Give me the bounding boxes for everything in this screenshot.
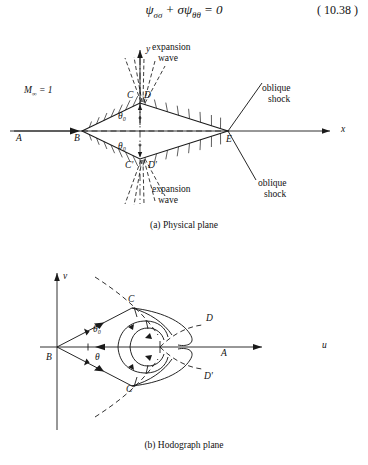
oblique-shock-label-lower: oblique shock xyxy=(258,178,287,200)
hodograph-plane-caption: (b) Hodograph plane xyxy=(0,440,368,450)
physical-x-axis-arrowhead xyxy=(322,128,330,134)
physical-x-axis-label: x xyxy=(341,124,345,135)
oblique-shock-upper-line2: shock xyxy=(268,94,290,105)
equation-number: ( 10.38 ) xyxy=(317,3,358,18)
physical-point-a: A xyxy=(16,133,22,144)
physical-point-c-prime: C' xyxy=(125,160,133,171)
oblique-shock-lower-line2: shock xyxy=(264,189,286,200)
expansion-wave-label-lower: expansion wave xyxy=(152,184,191,206)
physical-plane-figure xyxy=(0,28,368,268)
hodograph-axis-back-arrow xyxy=(95,344,105,350)
physical-point-c: C xyxy=(127,90,133,101)
physical-point-d: D xyxy=(144,90,151,101)
physical-angle-upper: θ₀ xyxy=(118,111,126,122)
physical-plane-caption: (a) Physical plane xyxy=(0,220,368,230)
expansion-wave-lower-line1: expansion xyxy=(152,184,191,194)
hatch-upper-aft xyxy=(143,97,221,129)
expansion-wave-upper-line1: expansion xyxy=(152,42,191,52)
physical-angle-lower: θ₀ xyxy=(118,141,126,152)
freestream-mach-label: M∞ = 1 xyxy=(24,85,52,97)
hodograph-v-axis-label: v xyxy=(63,271,67,282)
hodograph-point-d-prime: D' xyxy=(204,371,213,382)
hodograph-point-c-prime: C' xyxy=(126,384,134,395)
equation-body: ψσσ + σψθθ = 0 xyxy=(0,2,368,20)
physical-point-d-prime: D' xyxy=(148,160,157,171)
hodograph-point-b: B xyxy=(46,352,52,363)
expansion-wave-label-upper: expansion wave xyxy=(152,42,191,64)
hodograph-point-c: C xyxy=(128,294,134,305)
hodograph-angle-theta0: θ₀ xyxy=(93,324,101,335)
hodograph-u-axis-label: u xyxy=(322,340,327,351)
physical-y-axis-label: y xyxy=(146,44,150,55)
hodograph-plane-figure xyxy=(0,255,368,445)
expansion-wave-upper-line2: wave xyxy=(158,53,178,64)
oblique-shock-upper xyxy=(228,83,262,131)
oblique-shock-lower xyxy=(228,131,256,180)
hodograph-v-axis-arrowhead xyxy=(54,273,60,281)
hodograph-point-a: A xyxy=(221,348,227,359)
oblique-shock-upper-line1: oblique xyxy=(262,83,291,93)
physical-point-b: B xyxy=(74,133,80,144)
hodograph-u-axis-arrowhead xyxy=(253,344,262,350)
oblique-shock-lower-line1: oblique xyxy=(258,178,287,188)
oblique-shock-label-upper: oblique shock xyxy=(262,83,291,105)
hodograph-angle-theta: θ xyxy=(95,352,100,363)
equation-row: ψσσ + σψθθ = 0 ( 10.38 ) xyxy=(0,2,368,24)
expansion-wave-lower-line2: wave xyxy=(158,195,178,206)
hodograph-point-d: D xyxy=(206,313,213,324)
hodograph-ray-bc-prime-arrow xyxy=(94,365,104,372)
physical-point-e: E xyxy=(226,134,232,145)
physical-y-axis-arrowhead xyxy=(137,50,143,58)
hodograph-dashed-arc-upper xyxy=(95,277,158,335)
